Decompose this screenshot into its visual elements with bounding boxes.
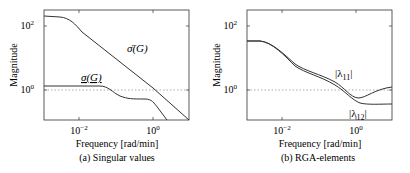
plot-frame-a bbox=[44, 10, 189, 120]
figure: 102 100 10−2 100 σ̄(G) σ(G) Magnitude Fr… bbox=[0, 0, 410, 173]
label-lambda11: |λ11| bbox=[335, 67, 352, 82]
xtick-a-1: 100 bbox=[146, 124, 160, 136]
series-lambda11 bbox=[247, 41, 392, 98]
series-lambda12 bbox=[247, 41, 392, 104]
ytick-b-1: 100 bbox=[224, 83, 238, 95]
label-sigma-min: σ(G) bbox=[81, 71, 102, 84]
caption-b: (b) RGA-elements bbox=[281, 152, 355, 164]
ylabel-a: Magnitude bbox=[8, 43, 19, 87]
ylabel-b: Magnitude bbox=[211, 43, 222, 87]
series-sigma-max bbox=[44, 16, 189, 120]
ytick-a-100: 102 bbox=[21, 19, 35, 31]
panel-a: 102 100 10−2 100 σ̄(G) σ(G) Magnitude Fr… bbox=[8, 10, 189, 164]
plot-frame-b bbox=[247, 10, 392, 120]
caption-a: (a) Singular values bbox=[79, 152, 155, 164]
ytick-a-1: 100 bbox=[21, 83, 35, 95]
series-sigma-min bbox=[44, 86, 167, 120]
ytick-b-100: 102 bbox=[224, 19, 238, 31]
xtick-a-001: 10−2 bbox=[70, 124, 88, 136]
xlabel-a: Frequency [rad/min] bbox=[76, 138, 158, 149]
panel-b: 102 100 10−2 100 |λ11| |λ12| Magnitude F… bbox=[211, 10, 392, 164]
xlabel-b: Frequency [rad/min] bbox=[279, 138, 361, 149]
xtick-b-001: 10−2 bbox=[273, 124, 291, 136]
label-sigma-max: σ̄(G) bbox=[127, 42, 148, 55]
xtick-b-1: 100 bbox=[349, 124, 363, 136]
